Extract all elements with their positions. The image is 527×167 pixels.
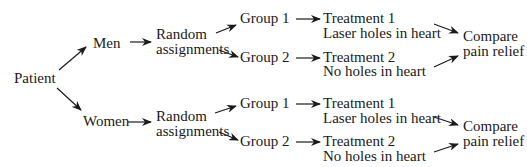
block-design-diagram: Patient Men Random assignments Group 1 G… bbox=[0, 0, 527, 167]
women-treatment-1-detail: Laser holes in heart bbox=[323, 111, 441, 126]
root-node-patient: Patient bbox=[14, 71, 56, 86]
branch-women: Women bbox=[83, 114, 129, 129]
women-treatment-2: Treatment 2 bbox=[323, 134, 395, 149]
random-assignment-men-line2: assignments bbox=[156, 42, 229, 57]
men-group-2: Group 2 bbox=[240, 50, 290, 65]
arrow-patient-women bbox=[57, 88, 81, 110]
women-treatment-2-detail: No holes in heart bbox=[323, 149, 426, 164]
branch-men: Men bbox=[93, 36, 121, 51]
random-assignment-women-line2: assignments bbox=[156, 124, 229, 139]
random-assignment-men-line1: Random bbox=[156, 27, 207, 42]
women-outcome-line2: pain relief bbox=[463, 134, 524, 149]
men-outcome-line2: pain relief bbox=[463, 44, 524, 59]
women-treatment-1: Treatment 1 bbox=[323, 96, 395, 111]
men-treatment-1: Treatment 1 bbox=[323, 11, 395, 26]
arrow-random-group1-top bbox=[216, 25, 236, 33]
arrow-treatment2-compare-bottom bbox=[434, 144, 458, 152]
men-outcome-line1: Compare bbox=[463, 29, 518, 44]
women-outcome-line1: Compare bbox=[463, 119, 518, 134]
arrow-random-group1-bottom bbox=[215, 106, 236, 113]
women-group-1: Group 1 bbox=[240, 96, 290, 111]
women-group-2: Group 2 bbox=[240, 134, 290, 149]
men-treatment-1-detail: Laser holes in heart bbox=[323, 26, 441, 41]
men-treatment-2-detail: No holes in heart bbox=[323, 64, 426, 79]
men-group-1: Group 1 bbox=[240, 11, 290, 26]
arrow-patient-men bbox=[59, 47, 86, 70]
arrow-treatment2-compare-top bbox=[434, 56, 458, 67]
random-assignment-women-line1: Random bbox=[156, 109, 207, 124]
